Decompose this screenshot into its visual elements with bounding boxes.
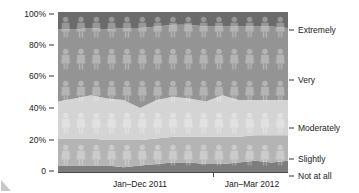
y-axis-tick-20 xyxy=(49,140,54,141)
y-axis-tick-60 xyxy=(49,76,54,77)
legend-tick-very xyxy=(289,80,294,81)
y-axis-tick-40 xyxy=(49,108,54,109)
x-axis-line xyxy=(58,172,288,173)
x-axis-label-2011: Jan–Dec 2011 xyxy=(113,179,167,189)
y-axis-label-40: 40% xyxy=(29,104,46,113)
stacked-area-svg xyxy=(58,12,288,172)
legend-tick-moderately xyxy=(289,128,294,129)
x-axis-label-2012: Jan–Mar 2012 xyxy=(225,179,279,189)
y-axis-tick-100 xyxy=(49,14,54,15)
y-axis-tick-80 xyxy=(49,45,54,46)
corner-arrow-icon xyxy=(0,178,14,193)
y-axis-label-60: 60% xyxy=(29,72,46,81)
legend: Extremely Very Moderately Slightly Not a… xyxy=(288,0,359,193)
x-axis-divider-tick xyxy=(213,172,214,177)
legend-label-very: Very xyxy=(298,76,315,85)
legend-tick-extremely xyxy=(289,30,294,31)
legend-tick-slightly xyxy=(289,159,294,160)
y-axis-label-20: 20% xyxy=(29,136,46,145)
chart-figure: 100% 80% 60% 40% 20% 0 xyxy=(0,0,359,193)
legend-label-slightly: Slightly xyxy=(298,155,325,164)
y-axis-label-100: 100% xyxy=(24,10,46,19)
x-axis: Jan–Dec 2011 Jan–Mar 2012 xyxy=(0,172,359,193)
legend-label-extremely: Extremely xyxy=(298,26,336,35)
plot-area xyxy=(58,12,288,172)
y-axis-label-80: 80% xyxy=(29,41,46,50)
y-axis: 100% 80% 60% 40% 20% 0 xyxy=(0,0,58,193)
legend-label-moderately: Moderately xyxy=(298,124,340,133)
person-silhouette-watermark xyxy=(58,12,288,172)
